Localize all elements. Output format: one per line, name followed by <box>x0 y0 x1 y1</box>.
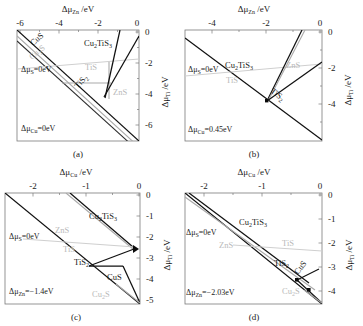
panel-c-ytick-3: -3 <box>146 253 154 263</box>
panel-d-phase-CuS: CuS <box>292 258 309 276</box>
panel-c: ΔμCu /eV -2 -1 0 0 -1 <box>0 163 181 326</box>
panel-c-condition-top: ΔμS=0eV <box>9 232 40 242</box>
panel-d-condition-top: ΔμS=0eV <box>186 228 217 238</box>
panel-c-phase-Cu2TiS3: Cu2TiS3 <box>89 211 117 222</box>
panel-a-phase-TiS: TiS <box>85 62 97 72</box>
panel-d-label: (d) <box>249 312 260 322</box>
panel-d-phase-TiS: TiS <box>282 238 294 248</box>
panel-d-xtick-1: -1 <box>258 181 266 191</box>
panel-d-xaxis-title: ΔμCu /eV <box>238 167 271 178</box>
panel-c-phase-CuS: CuS <box>107 272 122 282</box>
panel-a: ΔμZn /eV -6 -4 -2 0 <box>0 0 181 163</box>
panel-c-xaxis-title: ΔμCu /eV <box>60 167 93 178</box>
panel-d-ytick-2: -2 <box>328 238 336 248</box>
panel-d-phase-ZnS: ZnS <box>219 240 233 250</box>
panel-a-label: (a) <box>73 149 83 159</box>
panel-b-ytick-1: -2 <box>328 63 336 73</box>
panel-a-phase-ZnS: ZnS <box>113 87 127 97</box>
panel-c-ytick-1: -1 <box>146 211 154 221</box>
panel-b-phase-Cu2TiS3: Cu2TiS3 <box>225 60 253 71</box>
panel-d-phase-Cu2TiS3: Cu2TiS3 <box>239 217 267 228</box>
panel-d-ytick-0: 0 <box>328 190 333 200</box>
panel-d-condition-bottom: ΔμZn=−2.03eV <box>186 288 235 298</box>
panel-d: ΔμCu /eV -2 -1 0 0 -1 -2 <box>182 163 363 326</box>
panel-a-condition-top: ΔμS=0eV <box>21 65 52 75</box>
panel-b-xtick-0: -4 <box>208 18 216 28</box>
panel-a-condition-bottom: ΔμCu=0eV <box>21 124 56 134</box>
panel-c-invariant-point <box>133 245 139 253</box>
panel-b-label: (b) <box>249 149 260 159</box>
panel-d-yticks <box>319 195 323 291</box>
panel-b-ytick-2: -4 <box>328 99 336 109</box>
panel-b-lines <box>185 30 322 140</box>
panel-b-yticks <box>319 32 323 122</box>
panel-b-ytick-0: 0 <box>328 27 333 37</box>
panel-a-xtick-0: -6 <box>16 18 24 28</box>
panel-c-xtick-0: -2 <box>29 181 37 191</box>
panel-a-yticks <box>136 32 140 125</box>
panel-d-phase-TiS2: TiS2 <box>274 258 289 269</box>
panel-b: ΔμZn /eV -4 -2 0 0 -2 <box>182 0 363 163</box>
panel-b-invariant-point <box>265 99 268 102</box>
panel-d-xtick-2: 0 <box>318 181 323 191</box>
panel-c-ytick-0: 0 <box>146 190 151 200</box>
panel-d-invariant-point-upper <box>295 278 299 282</box>
panel-c-yticks <box>137 195 141 300</box>
panel-c-phase-ZnS: ZnS <box>55 225 69 235</box>
panel-a-xtick-2: -2 <box>94 18 102 28</box>
panel-a-ytick-2: -4 <box>145 89 153 99</box>
panel-a-phase-Cu2TiS3: Cu2TiS3 <box>84 38 112 49</box>
panel-b-phase-ZnS: ZnS <box>286 60 300 70</box>
panel-a-xtick-3: 0 <box>135 18 140 28</box>
panel-c-xtick-2: 0 <box>137 181 142 191</box>
panel-d-phase-Cu2S: Cu2S <box>282 286 300 297</box>
figure-chemical-potential-diagrams: ΔμZn /eV -6 -4 -2 0 <box>0 0 363 326</box>
panel-c-ytick-2: -2 <box>146 232 154 242</box>
panel-d-xtick-0: -2 <box>200 181 208 191</box>
panel-d-xticks <box>204 193 320 197</box>
panel-b-xtick-2: 0 <box>318 18 323 28</box>
panel-d-ytick-4: -4 <box>328 286 336 296</box>
panel-b-phase-TiS: TiS <box>226 75 238 85</box>
panel-a-ytick-0: 0 <box>145 27 150 37</box>
panel-c-yaxis-title: ΔμTi /eV <box>162 239 173 270</box>
panel-b-condition-top: ΔμS=0eV <box>188 65 219 75</box>
panel-c-ytick-5: -5 <box>146 295 154 305</box>
panel-c-xtick-1: -1 <box>82 181 90 191</box>
panel-b-xtick-1: -2 <box>262 18 270 28</box>
panel-a-xaxis-title: ΔμZn /eV <box>62 4 95 15</box>
panel-b-yaxis-title: ΔμTi /eV <box>343 74 354 105</box>
panel-c-phase-TiS2: TiS2 <box>74 257 89 268</box>
panel-c-phase-Cu2S: Cu2S <box>92 289 110 300</box>
panel-c-ytick-4: -4 <box>146 274 154 284</box>
panel-d-ytick-3: -3 <box>328 262 336 272</box>
panel-d-yaxis-title: ΔμTi /eV <box>344 239 355 270</box>
panel-b-xaxis-title: ΔμZn /eV <box>238 4 271 15</box>
panel-a-yaxis-title: ΔμTi /eV <box>160 76 171 107</box>
panel-a-ytick-1: -2 <box>145 58 153 68</box>
panel-c-condition-bottom: ΔμZn=−1.4eV <box>9 287 54 297</box>
panel-b-condition-bottom: ΔμCu=0.45eV <box>188 125 233 135</box>
panel-c-phase-TiS: TiS <box>63 244 75 254</box>
panel-c-xticks <box>33 193 139 197</box>
panel-a-xtick-1: -4 <box>55 18 63 28</box>
panel-a-ytick-3: -6 <box>145 120 153 130</box>
panel-c-label: (c) <box>71 312 81 322</box>
panel-d-invariant-point-lower <box>307 288 311 292</box>
panel-d-ytick-1: -1 <box>328 214 336 224</box>
